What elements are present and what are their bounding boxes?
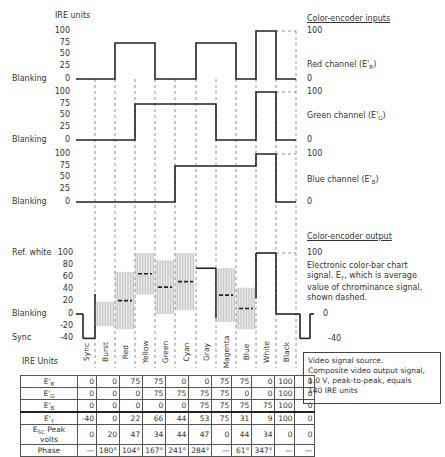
table-cell: 241° xyxy=(166,445,189,457)
table-cell: 284° xyxy=(189,445,212,457)
tick: 75 xyxy=(40,161,70,170)
tick: 100 xyxy=(43,248,73,257)
table-cell: 44 xyxy=(166,425,189,445)
table-cell: — xyxy=(78,445,97,457)
column-header: Cyan xyxy=(175,337,196,367)
row-label: E'G xyxy=(21,388,78,400)
tick: 100 xyxy=(40,26,70,35)
table-cell: 75 xyxy=(143,388,166,400)
table-cell: 100 xyxy=(275,388,295,400)
tick: -40 xyxy=(43,333,73,342)
table-cell: 53 xyxy=(189,412,212,425)
table-cell: 47 xyxy=(189,425,212,445)
column-header: Black xyxy=(276,337,296,367)
column-header: White xyxy=(256,337,276,367)
column-header: Burst xyxy=(95,337,115,367)
table-cell: — xyxy=(295,445,315,457)
table-cell: 0 xyxy=(97,388,120,400)
column-header: Yellow xyxy=(135,337,155,367)
table-cell: 0 xyxy=(120,388,143,400)
table-cell: 34 xyxy=(252,425,275,445)
tick: 50 xyxy=(40,49,70,58)
output-sync-value: -40 xyxy=(328,334,341,343)
tick: 100 xyxy=(40,87,70,96)
table-cell: 75 xyxy=(212,388,232,400)
blanking-label: Blanking xyxy=(12,197,47,206)
table-row: E'B00000757575751000 xyxy=(21,400,315,413)
table-cell: — xyxy=(212,445,232,457)
table-cell: 0 xyxy=(78,400,97,413)
red-top-value: 100 xyxy=(307,26,322,35)
red-channel-label: Red channel (E'R) xyxy=(307,60,376,70)
table-cell: 44 xyxy=(232,425,252,445)
table-cell: 0 xyxy=(252,376,275,388)
table-cell: 75 xyxy=(189,400,212,413)
row-label: E'Y xyxy=(21,412,78,425)
table-cell: 61° xyxy=(232,445,252,457)
sync-label: Sync xyxy=(12,333,31,342)
tick: 25 xyxy=(40,122,70,131)
tick: 50 xyxy=(40,172,70,181)
table-cell: 75 xyxy=(143,376,166,388)
blanking-label: Blanking xyxy=(12,309,47,318)
note-line: 140 IRE units xyxy=(308,386,436,396)
tick: 0 xyxy=(43,309,73,318)
table-cell: 20 xyxy=(97,425,120,445)
table-row: E'G00075757575001000 xyxy=(21,388,315,400)
table-cell: 0 xyxy=(120,400,143,413)
table-cell: 0 xyxy=(232,388,252,400)
tick: 75 xyxy=(40,38,70,47)
blue-top-value: 100 xyxy=(307,149,322,158)
table-cell: 167° xyxy=(143,445,166,457)
table-cell: -40 xyxy=(78,412,97,425)
table-row: ESC Peak volts020473444470443400 xyxy=(21,425,315,445)
table-cell: 0 xyxy=(295,425,315,445)
table-cell: 0 xyxy=(295,412,315,425)
table-cell: — xyxy=(275,445,295,457)
table-cell: 0 xyxy=(97,376,120,388)
table-cell: 0 xyxy=(166,376,189,388)
column-header: Magenta xyxy=(216,337,236,367)
tick: 25 xyxy=(40,184,70,193)
table-row: E'R00757500757501000 xyxy=(21,376,315,388)
table-cell: 75 xyxy=(232,400,252,413)
table-cell: 22 xyxy=(120,412,143,425)
tick: 50 xyxy=(40,110,70,119)
table-corner-label: IRE Units xyxy=(22,357,58,366)
blanking-label: Blanking xyxy=(12,74,47,83)
note-line: Composite video output signal, xyxy=(308,366,436,376)
table-cell: 100 xyxy=(275,412,295,425)
table-cell: 0 xyxy=(252,388,275,400)
table-cell: 0 xyxy=(78,388,97,400)
tick: 25 xyxy=(40,61,70,70)
blue-channel-label: Blue channel (E'B) xyxy=(307,175,379,185)
row-label: ESC Peak volts xyxy=(21,425,78,445)
row-label: E'B xyxy=(21,400,78,413)
table-cell: 75 xyxy=(212,412,232,425)
video-source-note: Video signal source. Composite video out… xyxy=(303,352,441,404)
table-cell: 34 xyxy=(143,425,166,445)
table-cell: 66 xyxy=(143,412,166,425)
output-zero-value: 0 xyxy=(323,309,328,318)
tick: 40 xyxy=(43,284,73,293)
tick: 20 xyxy=(43,296,73,305)
note-line: 1.0 V, peak-to-peak, equals xyxy=(308,376,436,386)
tick: 60 xyxy=(43,272,73,281)
table-cell: 180° xyxy=(97,445,120,457)
green-bottom-value: 0 xyxy=(307,135,312,144)
table-cell: 0 xyxy=(275,425,295,445)
table-cell: 9 xyxy=(252,412,275,425)
table-cell: 47 xyxy=(120,425,143,445)
table-cell: 44 xyxy=(166,412,189,425)
table-cell: 75 xyxy=(232,376,252,388)
column-header: Sync xyxy=(76,337,95,367)
output-title: Color-encoder output xyxy=(307,232,392,241)
table-cell: 0 xyxy=(97,412,120,425)
table-cell: 75 xyxy=(120,376,143,388)
red-bottom-value: 0 xyxy=(307,74,312,83)
column-header: Red xyxy=(115,337,135,367)
table-cell: 75 xyxy=(212,400,232,413)
table-cell: 75 xyxy=(189,388,212,400)
table-cell: 75 xyxy=(166,388,189,400)
table-cell: 347° xyxy=(252,445,275,457)
